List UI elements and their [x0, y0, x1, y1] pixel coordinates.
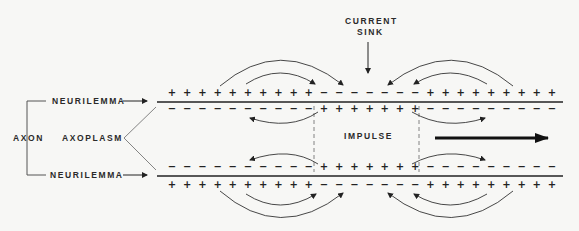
negative-charge: −	[183, 161, 191, 172]
positive-charge: +	[517, 87, 525, 98]
negative-charge: −	[213, 103, 221, 114]
positive-charge: +	[487, 179, 495, 190]
positive-charge: +	[259, 179, 267, 190]
positive-charge: +	[320, 103, 328, 114]
positive-charge: +	[213, 87, 221, 98]
negative-charge: −	[335, 179, 343, 190]
positive-charge: +	[441, 179, 449, 190]
negative-charge: −	[396, 179, 404, 190]
negative-charge: −	[335, 87, 343, 98]
positive-charge: +	[305, 179, 313, 190]
external-current-loops-top	[220, 60, 513, 86]
negative-charge: −	[365, 87, 373, 98]
positive-charge: +	[426, 87, 434, 98]
negative-charge: −	[289, 161, 297, 172]
neurilemma-top-label: NEURILEMMA	[52, 96, 126, 106]
axoplasm-pointer	[124, 107, 156, 170]
positive-charge: +	[229, 87, 237, 98]
positive-charge: +	[441, 87, 449, 98]
negative-charge: −	[305, 161, 313, 172]
negative-charge: −	[198, 161, 206, 172]
positive-charge: +	[381, 103, 389, 114]
negative-charge: −	[350, 179, 358, 190]
positive-charge: +	[289, 179, 297, 190]
positive-charge: +	[533, 87, 541, 98]
positive-charge: +	[502, 179, 510, 190]
positive-charge: +	[396, 103, 404, 114]
positive-charge: +	[274, 87, 282, 98]
positive-charge: +	[289, 87, 297, 98]
positive-charge: +	[472, 87, 480, 98]
positive-charge: +	[381, 161, 389, 172]
positive-charge: +	[183, 179, 191, 190]
positive-charge: +	[457, 179, 465, 190]
positive-charge: +	[244, 87, 252, 98]
positive-charge: +	[350, 161, 358, 172]
current-sink-label-line2: SINK	[357, 27, 384, 37]
positive-charge: +	[517, 179, 525, 190]
positive-charge: +	[274, 179, 282, 190]
positive-charge: +	[168, 87, 176, 98]
negative-charge: −	[533, 161, 541, 172]
negative-charge: −	[487, 103, 495, 114]
current-sink-label-line1: CURRENT	[345, 16, 398, 26]
negative-charge: −	[244, 161, 252, 172]
positive-charge: +	[335, 103, 343, 114]
negative-charge: −	[502, 103, 510, 114]
negative-charge: −	[441, 103, 449, 114]
neurilemma-bottom-label: NEURILEMMA	[50, 170, 124, 180]
negative-charge: −	[457, 103, 465, 114]
positive-charge: +	[548, 87, 556, 98]
negative-charge: −	[320, 179, 328, 190]
negative-charge: −	[441, 161, 449, 172]
axon-label: AXON	[13, 133, 44, 143]
negative-charge: −	[350, 87, 358, 98]
positive-charge: +	[396, 161, 404, 172]
negative-charge: −	[548, 161, 556, 172]
positive-charge: +	[365, 161, 373, 172]
charges-bottom-outer: ++++++++++−−−−−−−+++++++++	[168, 179, 556, 190]
positive-charge: +	[502, 87, 510, 98]
negative-charge: −	[487, 161, 495, 172]
negative-charge: −	[229, 103, 237, 114]
negative-charge: −	[517, 103, 525, 114]
negative-charge: −	[365, 179, 373, 190]
positive-charge: +	[229, 179, 237, 190]
negative-charge: −	[396, 87, 404, 98]
positive-charge: +	[533, 179, 541, 190]
negative-charge: −	[274, 103, 282, 114]
negative-charge: −	[168, 103, 176, 114]
negative-charge: −	[259, 161, 267, 172]
negative-charge: −	[168, 161, 176, 172]
negative-charge: −	[457, 161, 465, 172]
positive-charge: +	[213, 179, 221, 190]
negative-charge: −	[183, 103, 191, 114]
negative-charge: −	[213, 161, 221, 172]
positive-charge: +	[198, 87, 206, 98]
positive-charge: +	[472, 179, 480, 190]
positive-charge: +	[305, 87, 313, 98]
negative-charge: −	[289, 103, 297, 114]
negative-charge: −	[517, 161, 525, 172]
negative-charge: −	[259, 103, 267, 114]
negative-charge: −	[305, 103, 313, 114]
positive-charge: +	[548, 179, 556, 190]
impulse-label: IMPULSE	[344, 131, 393, 141]
negative-charge: −	[426, 161, 434, 172]
positive-charge: +	[244, 179, 252, 190]
positive-charge: +	[320, 161, 328, 172]
negative-charge: −	[411, 179, 419, 190]
positive-charge: +	[259, 87, 267, 98]
negative-charge: −	[548, 103, 556, 114]
positive-charge: +	[168, 179, 176, 190]
positive-charge: +	[335, 161, 343, 172]
negative-charge: −	[533, 103, 541, 114]
negative-charge: −	[381, 179, 389, 190]
positive-charge: +	[487, 87, 495, 98]
positive-charge: +	[350, 103, 358, 114]
negative-charge: −	[472, 161, 480, 172]
positive-charge: +	[183, 87, 191, 98]
negative-charge: −	[411, 87, 419, 98]
positive-charge: +	[426, 179, 434, 190]
negative-charge: −	[381, 87, 389, 98]
